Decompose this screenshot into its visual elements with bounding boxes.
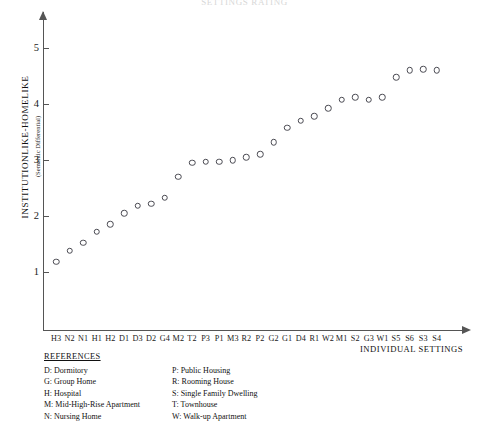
data-point-H2	[107, 221, 114, 228]
x-tick-label-R2: R2	[242, 334, 252, 343]
data-point-H1	[94, 228, 101, 235]
references-heading: REFERENCES	[44, 352, 344, 361]
data-point-R1	[311, 113, 318, 120]
data-point-W1	[379, 94, 386, 101]
data-point-S4	[434, 67, 441, 74]
data-point-G3	[366, 96, 373, 103]
reference-item-right-1: R: Rooming House	[172, 376, 342, 387]
data-point-H3	[53, 259, 60, 266]
data-point-S2	[352, 94, 359, 101]
data-point-D3	[134, 203, 141, 210]
data-point-S5	[393, 74, 400, 81]
y-tick-label-5: 5	[34, 43, 39, 54]
x-tick-label-W1: W1	[376, 334, 388, 343]
reference-item-right-2: S: Single Family Dwelling	[172, 388, 342, 399]
data-point-M1	[338, 96, 345, 103]
x-tick-label-D2: D2	[146, 334, 156, 343]
x-tick-label-D3: D3	[132, 334, 142, 343]
x-tick-label-M1: M1	[336, 334, 348, 343]
x-axis-title: INDIVIDUAL SETTINGS	[360, 344, 463, 354]
x-tick-label-N1: N1	[78, 334, 88, 343]
data-point-P3	[202, 158, 209, 165]
data-point-N2	[66, 247, 73, 254]
x-tick-label-P1: P1	[215, 334, 224, 343]
x-tick-label-M3: M3	[227, 334, 239, 343]
data-point-N1	[80, 240, 87, 247]
x-tick-label-P3: P3	[201, 334, 210, 343]
y-tick-label-2: 2	[34, 211, 39, 222]
data-point-R2	[243, 154, 250, 161]
y-axis-title: INSTITUTIONLIKE-HOMELIKE	[20, 22, 30, 272]
y-tick-label-4: 4	[34, 99, 39, 110]
data-point-S3	[420, 66, 427, 73]
data-point-M3	[230, 157, 237, 164]
y-tick-label-3: 3	[34, 155, 39, 166]
x-tick-label-S4: S4	[432, 334, 441, 343]
reference-item-right-3: T: Townhouse	[172, 399, 342, 410]
data-point-G4	[162, 194, 169, 201]
reference-item-left-3: M: Mid-High-Rise Apartment	[44, 399, 172, 410]
references-columns: D: DormitoryG: Group HomeH: HospitalM: M…	[44, 365, 344, 422]
y-tick-4: 4	[43, 104, 49, 105]
reference-item-left-0: D: Dormitory	[44, 365, 172, 376]
x-tick-label-D4: D4	[296, 334, 306, 343]
x-tick-label-H2: H2	[105, 334, 115, 343]
y-axis-line	[43, 12, 44, 330]
x-tick-label-S5: S5	[392, 334, 401, 343]
x-tick-label-W2: W2	[322, 334, 334, 343]
x-tick-label-S2: S2	[351, 334, 360, 343]
plot-area: 12345 H3N2N1H1H2D1D3D2G4M2T2P3P1M3R2P2G2…	[43, 12, 489, 330]
chart-figure: SETTINGS RATING INSTITUTIONLIKE-HOMELIKE…	[0, 0, 489, 427]
y-tick-5: 5	[43, 48, 49, 49]
reference-item-right-0: P: Public Housing	[172, 365, 342, 376]
y-tick-label-1: 1	[34, 267, 39, 278]
y-axis-subtitle: (Semantic Differential)	[34, 22, 41, 272]
reference-item-left-4: N: Nursing Home	[44, 411, 172, 422]
references-column-left: D: DormitoryG: Group HomeH: HospitalM: M…	[44, 365, 172, 422]
x-axis-arrow-icon	[462, 326, 471, 334]
y-axis-arrow-icon	[39, 11, 47, 20]
x-tick-label-S6: S6	[405, 334, 414, 343]
x-tick-label-M2: M2	[173, 334, 185, 343]
x-tick-label-R1: R1	[310, 334, 320, 343]
y-tick-1: 1	[43, 272, 49, 273]
x-tick-label-G1: G1	[282, 334, 292, 343]
x-tick-label-G2: G2	[268, 334, 278, 343]
references-block: REFERENCES D: DormitoryG: Group HomeH: H…	[44, 352, 344, 422]
cut-off-title: SETTINGS RATING	[0, 0, 489, 5]
x-tick-label-G3: G3	[364, 334, 374, 343]
reference-item-left-1: G: Group Home	[44, 376, 172, 387]
x-tick-label-H1: H1	[92, 334, 102, 343]
data-point-D1	[121, 210, 128, 217]
data-point-D4	[298, 118, 305, 125]
reference-item-right-4: W: Walk-up Apartment	[172, 411, 342, 422]
data-point-D2	[148, 200, 155, 207]
x-tick-label-S3: S3	[419, 334, 428, 343]
references-column-right: P: Public HousingR: Rooming HouseS: Sing…	[172, 365, 342, 422]
y-tick-3: 3	[43, 160, 49, 161]
reference-item-left-2: H: Hospital	[44, 388, 172, 399]
x-tick-label-D1: D1	[119, 334, 129, 343]
x-tick-label-T2: T2	[187, 334, 196, 343]
x-tick-label-N2: N2	[64, 334, 74, 343]
x-axis-line	[43, 330, 463, 331]
data-point-P2	[257, 151, 264, 158]
x-tick-label-P2: P2	[256, 334, 265, 343]
x-tick-label-G4: G4	[160, 334, 170, 343]
data-point-W2	[325, 105, 332, 112]
x-tick-label-H3: H3	[51, 334, 61, 343]
data-point-G1	[284, 124, 291, 131]
data-point-G2	[270, 139, 277, 146]
data-point-M2	[175, 174, 182, 181]
data-point-T2	[189, 160, 196, 167]
y-tick-2: 2	[43, 216, 49, 217]
data-point-S6	[406, 67, 413, 74]
data-point-P1	[216, 158, 223, 165]
